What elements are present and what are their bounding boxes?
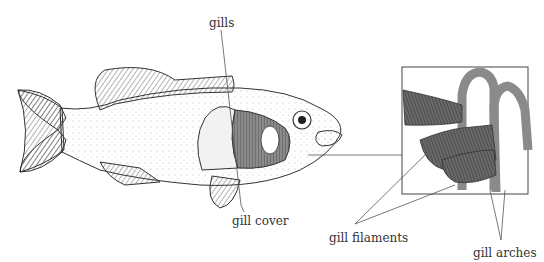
gill-arches-leader-1: [490, 190, 501, 240]
inset-detail: [402, 67, 528, 194]
pupil: [298, 116, 306, 124]
label-gill-filaments: gill filaments: [329, 231, 408, 245]
label-gill-arches: gill arches: [473, 246, 537, 260]
fish-illustration: [18, 68, 342, 208]
label-gill-cover: gill cover: [232, 214, 289, 228]
gill-cover-leader: [241, 205, 244, 212]
mouth: [316, 131, 342, 146]
pelvic-fin: [210, 176, 240, 208]
fish-gill-diagram: gills gill cover gill filaments gill arc…: [0, 0, 544, 262]
label-gills: gills: [209, 16, 234, 30]
mouth-cavity: [261, 126, 279, 154]
gill-arches-leader-2: [501, 190, 505, 240]
